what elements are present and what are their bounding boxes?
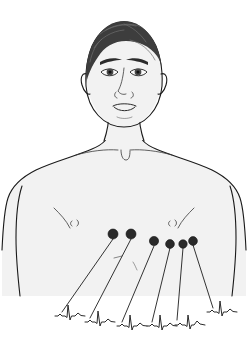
electrode-v5	[179, 240, 187, 248]
electrode-v3	[149, 236, 158, 245]
electrode-v1	[126, 229, 136, 239]
ecg-electrode-placement-figure	[0, 0, 252, 344]
electrode-v6	[189, 237, 198, 246]
electrode-v2	[108, 229, 118, 239]
electrode-v4	[166, 240, 175, 249]
